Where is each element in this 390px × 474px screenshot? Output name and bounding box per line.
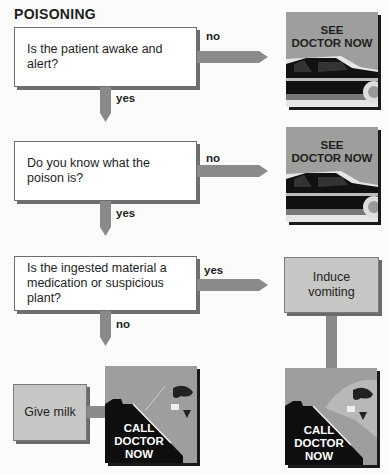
call-doctor-now-image: CALL DOCTOR NOW xyxy=(105,366,197,463)
arrow-right-icon xyxy=(197,164,269,178)
doctor-now-label: DOCTOR NOW xyxy=(286,152,378,165)
branch-label-no: no xyxy=(206,30,220,42)
branch-label-no: no xyxy=(116,318,130,330)
question-box-medication: Is the ingested material a medication or… xyxy=(14,256,197,311)
action-text: Give milk xyxy=(24,405,75,420)
induce-vomiting-box: Induce vomiting xyxy=(284,257,379,313)
call-label: CALL xyxy=(291,424,347,437)
connector-line xyxy=(87,406,107,418)
doctor-label: DOCTOR xyxy=(111,435,167,448)
arrow-right-icon xyxy=(197,50,269,64)
call-label: CALL xyxy=(111,422,167,435)
call-doctor-now-image: CALL DOCTOR NOW xyxy=(285,368,377,465)
question-box-known-poison: Do you know what the poison is? xyxy=(14,141,197,201)
doctor-now-label: DOCTOR NOW xyxy=(286,37,378,50)
see-doctor-now-image: SEE DOCTOR NOW xyxy=(286,12,378,107)
arrow-down-icon xyxy=(99,311,112,347)
question-text: Do you know what the poison is? xyxy=(27,156,184,186)
see-label: SEE xyxy=(286,139,378,152)
action-text: Induce vomiting xyxy=(302,270,362,300)
connector-line xyxy=(326,316,337,368)
branch-label-no: no xyxy=(206,152,220,164)
now-label: NOW xyxy=(291,450,347,463)
question-text: Is the ingested material a medication or… xyxy=(27,261,184,306)
question-box-awake: Is the patient awake and alert? xyxy=(14,27,197,87)
page-title: POISONING xyxy=(14,6,96,22)
arrow-down-icon xyxy=(99,87,112,123)
doctor-label: DOCTOR xyxy=(291,437,347,450)
branch-label-yes: yes xyxy=(116,92,135,104)
arrow-down-icon xyxy=(99,201,112,237)
now-label: NOW xyxy=(111,448,167,461)
see-label: SEE xyxy=(286,24,378,37)
branch-label-yes: yes xyxy=(116,207,135,219)
branch-label-yes: yes xyxy=(204,264,223,276)
question-text: Is the patient awake and alert? xyxy=(27,42,184,72)
give-milk-box: Give milk xyxy=(13,384,87,441)
arrow-right-icon xyxy=(197,278,269,292)
see-doctor-now-image: SEE DOCTOR NOW xyxy=(286,127,378,222)
